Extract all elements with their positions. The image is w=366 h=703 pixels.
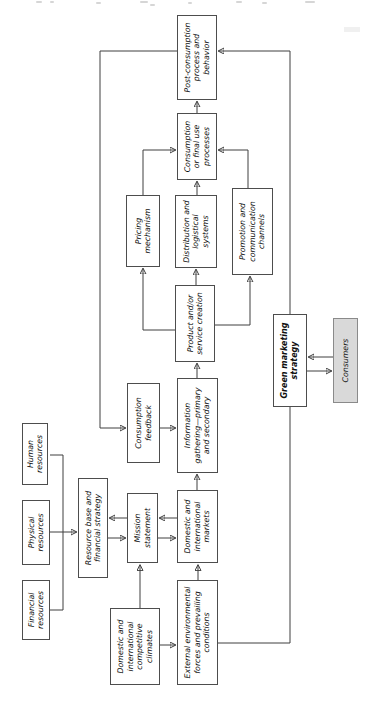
node-post-consumption: Post-consumption process and behavior <box>177 15 217 100</box>
node-physical-resources: Physical resources <box>22 500 50 565</box>
page: Financial resources Physical resources H… <box>0 0 366 703</box>
node-distribution: Distribution and logistical systems <box>175 195 217 268</box>
flowchart: Financial resources Physical resources H… <box>0 0 366 703</box>
node-financial-resources: Financial resources <box>22 580 50 640</box>
node-consumers: Consumers <box>333 318 358 403</box>
node-product-creation: Product and/or service creation <box>175 285 215 362</box>
edge-product-to-promotion <box>215 277 250 326</box>
node-resource-base: Resource base and financial strategy <box>78 478 108 578</box>
edge-promotion-to-consumption <box>219 150 249 188</box>
node-external-environment: External environmental forces and prevai… <box>177 580 218 685</box>
node-markets: Domestic and international markets <box>177 490 218 563</box>
node-promotion: Promotion and communication channels <box>232 188 273 275</box>
node-consumption: Consumption or final use processes <box>177 113 217 180</box>
edge-pricing-to-consumption <box>143 150 176 195</box>
node-green-marketing-strategy: Green marketing strategy <box>273 314 307 407</box>
edge-external-env-to-gms <box>218 407 290 643</box>
node-competitive-climates: Domestic and international competitive c… <box>110 608 160 685</box>
node-information-gathering: Information gathering—primary and second… <box>177 378 218 473</box>
node-consumption-feedback: Consumption feedback <box>127 383 160 463</box>
node-mission-statement: Mission statement <box>127 493 158 563</box>
edge-product-to-pricing <box>143 269 175 331</box>
node-pricing-mechanism: Pricing mechanism <box>126 195 160 267</box>
node-human-resources: Human resources <box>22 423 48 485</box>
